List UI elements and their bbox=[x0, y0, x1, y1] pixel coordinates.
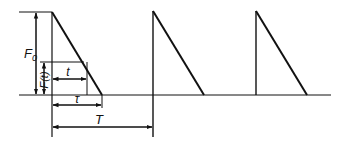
pulse-duration-label: τ bbox=[75, 92, 81, 106]
pulse-3 bbox=[256, 11, 307, 95]
instant-force-label: F(t) bbox=[38, 71, 50, 88]
peak-force-label: F0 bbox=[24, 46, 37, 63]
pulse-2 bbox=[153, 11, 204, 137]
time-label: t bbox=[66, 65, 70, 79]
period-label: T bbox=[95, 112, 104, 127]
pulse-load-diagram: F0 F(t) t τ T bbox=[0, 0, 347, 150]
